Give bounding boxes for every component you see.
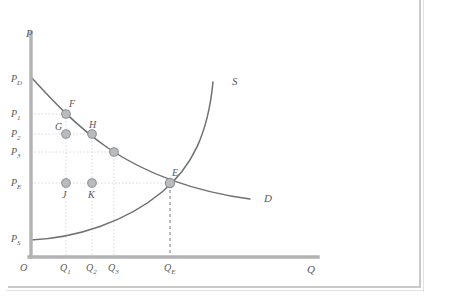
marker-point-f: [62, 110, 71, 119]
y-tick-sub-pd: D: [17, 79, 22, 87]
y-tick-label-p2: P2: [11, 129, 21, 142]
y-tick-label-pd: PD: [11, 74, 22, 87]
x-tick-sub-qe: E: [171, 268, 175, 276]
y-tick-sub-ps: S: [17, 239, 21, 247]
y-tick-label-ps: PS: [11, 234, 21, 247]
gridlines: [31, 114, 170, 256]
marker-point-g: [62, 130, 71, 139]
marker-point-k: [88, 179, 97, 188]
y-tick-sub-pe: E: [17, 183, 21, 191]
point-label-g: G: [55, 122, 62, 132]
point-label-h: H: [89, 120, 96, 130]
x-tick-label-q3: Q3: [108, 263, 119, 276]
origin-label: O: [20, 263, 27, 273]
y-tick-label-p3: P3: [11, 147, 21, 160]
demand-curve-label: D: [264, 193, 272, 204]
x-tick-label-q2: Q2: [86, 263, 97, 276]
y-tick-sub-p1: 1: [17, 114, 21, 122]
y-axis-title: P: [26, 28, 33, 39]
point-label-j: J: [62, 190, 66, 200]
marker-point-unlabeled-q3: [110, 148, 119, 157]
x-tick-sub-q3: 3: [115, 268, 119, 276]
figure-page: P Q O PD P1 P2 P3 PE PS Q1 Q2 Q3: [0, 0, 452, 307]
marker-point-e: [165, 178, 174, 187]
point-label-e: E: [172, 168, 178, 178]
marker-point-j: [62, 179, 71, 188]
y-tick-label-p1: P1: [11, 109, 21, 122]
marker-point-h: [88, 130, 97, 139]
data-point-markers: [62, 110, 175, 188]
x-tick-label-qe: QE: [164, 263, 176, 276]
x-tick-sub-q2: 2: [93, 268, 97, 276]
supply-curve-label: S: [232, 76, 238, 87]
x-axis-title: Q: [307, 264, 315, 275]
y-tick-label-pe: PE: [11, 178, 21, 191]
y-tick-sub-p3: 3: [17, 152, 21, 160]
y-tick-sub-p2: 2: [17, 134, 21, 142]
chart-canvas: [0, 0, 452, 307]
x-tick-sub-q1: 1: [67, 268, 71, 276]
point-label-f: F: [69, 99, 75, 109]
x-tick-label-q1: Q1: [60, 263, 71, 276]
supply-demand-chart: P Q O PD P1 P2 P3 PE PS Q1 Q2 Q3: [0, 0, 452, 307]
point-label-k: K: [88, 190, 95, 200]
